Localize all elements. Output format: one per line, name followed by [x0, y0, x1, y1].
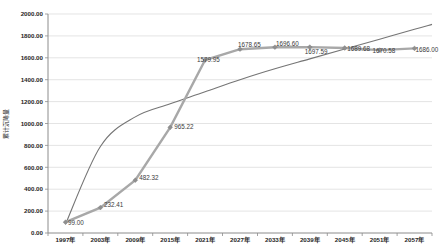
- y-tick-label: 1000.00: [21, 120, 44, 127]
- data-label: 1696.60: [276, 40, 299, 47]
- x-tick-label: 2033年: [265, 236, 286, 244]
- y-tick-label: 600.00: [24, 164, 43, 171]
- x-tick-label: 2045年: [335, 236, 356, 244]
- x-tick-label: 2039年: [300, 236, 321, 244]
- x-tick-label: 2027年: [230, 236, 251, 244]
- x-tick-label: 2051年: [370, 236, 391, 244]
- y-tick-label: 2000.00: [21, 10, 44, 17]
- x-tick-label: 2003年: [91, 236, 112, 244]
- data-label: 1689.68: [347, 45, 370, 52]
- y-axis-title: 累计沉降量: [2, 109, 10, 139]
- data-label: 232.41: [104, 201, 124, 208]
- data-label: 965.22: [174, 123, 194, 130]
- x-tick-label: 1997年: [56, 236, 77, 244]
- data-label: 1579.95: [197, 56, 220, 63]
- data-label: 99.00: [68, 219, 84, 226]
- y-tick-label: 800.00: [24, 142, 43, 149]
- chart-panel: 0.00200.00400.00600.00800.001000.001200.…: [0, 0, 440, 249]
- y-tick-label: 200.00: [24, 207, 43, 214]
- data-label: 482.32: [139, 174, 159, 181]
- x-tick-label: 2009年: [125, 236, 146, 244]
- x-tick-label: 2057年: [405, 236, 426, 244]
- y-tick-label: 1400.00: [21, 76, 44, 83]
- data-label: 1670.58: [373, 47, 396, 54]
- data-series-line: [66, 47, 415, 222]
- line-chart: 0.00200.00400.00600.00800.001000.001200.…: [0, 0, 440, 249]
- x-tick-label: 2015年: [160, 236, 181, 244]
- x-tick-label: 2021年: [195, 236, 216, 244]
- y-tick-label: 1600.00: [21, 54, 44, 61]
- data-label: 1686.00: [416, 46, 439, 53]
- y-tick-label: 1200.00: [21, 98, 44, 105]
- y-tick-label: 400.00: [24, 185, 43, 192]
- trendline-curve: [66, 24, 433, 224]
- data-label: 1678.65: [238, 41, 261, 48]
- y-tick-label: 1800.00: [21, 32, 44, 39]
- y-tick-label: 0.00: [31, 229, 44, 236]
- data-label: 1697.59: [305, 48, 328, 55]
